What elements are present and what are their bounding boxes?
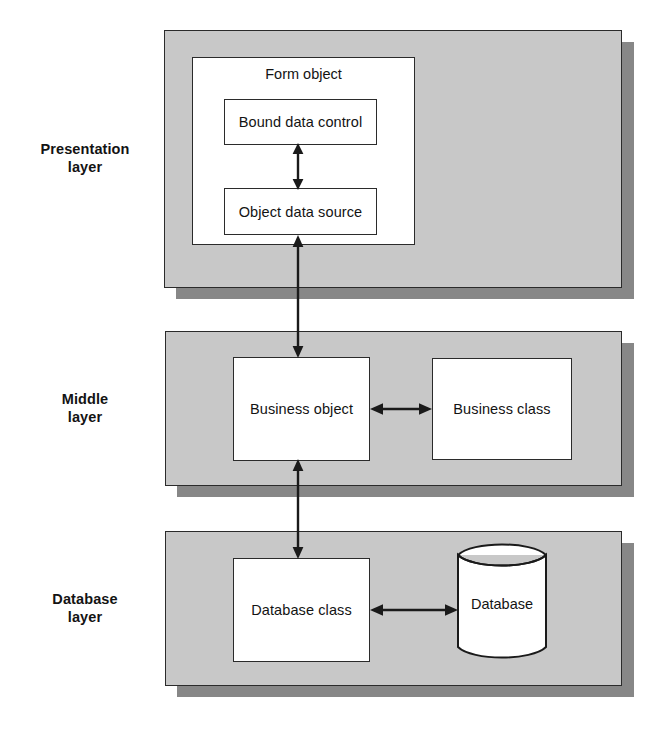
database-class-label: Database class	[251, 602, 352, 618]
database-cylinder-label: Database	[452, 596, 552, 612]
object-data-source-label: Object data source	[239, 204, 363, 220]
database-class-box: Database class	[233, 558, 370, 662]
architecture-diagram: Presentation layer Form object Bound dat…	[0, 0, 671, 735]
business-class-label: Business class	[453, 401, 550, 417]
presentation-layer-label: Presentation layer	[0, 140, 170, 176]
object-data-source-box: Object data source	[224, 188, 377, 235]
database-layer-label-line1: Database	[0, 590, 170, 608]
business-object-label: Business object	[250, 401, 353, 417]
middle-layer-label-line2: layer	[0, 408, 170, 426]
business-object-to-business-class-arrow	[370, 399, 432, 419]
presentation-layer-label-line2: layer	[0, 158, 170, 176]
database-layer-label: Database layer	[0, 590, 170, 626]
bound-data-control-label: Bound data control	[239, 114, 363, 130]
form-object-label: Form object	[193, 66, 414, 82]
bound-data-control-box: Bound data control	[224, 99, 377, 145]
object-data-source-to-business-object-arrow	[288, 235, 308, 358]
database-layer-label-line2: layer	[0, 608, 170, 626]
business-class-box: Business class	[432, 358, 572, 460]
business-object-to-database-class-arrow	[288, 459, 308, 559]
database-class-to-database-arrow	[370, 600, 458, 620]
business-object-box: Business object	[233, 357, 370, 461]
presentation-layer-label-line1: Presentation	[0, 140, 170, 158]
bound-control-to-data-source-arrow	[288, 143, 308, 190]
middle-layer-label-line1: Middle	[0, 390, 170, 408]
middle-layer-label: Middle layer	[0, 390, 170, 426]
